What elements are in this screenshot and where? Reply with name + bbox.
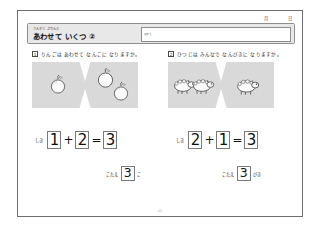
sheep-panel-left [168, 62, 222, 108]
answer-unit: びき [253, 171, 261, 177]
worksheet-page: 月 日 さんすう ぷりんと あわせて いくつ ② なまえ 1 りんごは あわせて… [0, 0, 320, 249]
apple-icon [48, 74, 68, 96]
date-marks: 月 日 [264, 15, 292, 21]
equation-operand-b[interactable]: 1 [216, 131, 230, 149]
question-2-equation: しき 2 + 1 = 3 [176, 131, 258, 149]
answer-label: こたえ [222, 171, 235, 177]
questions-row: 1 りんごは あわせて なんこに なりますか。 [18, 51, 302, 108]
title-text-group: さんすう ぷりんと あわせて いくつ ② [28, 24, 95, 43]
sheep-panel-right [220, 62, 274, 108]
plus-icon: + [63, 134, 73, 146]
equation-label: しき [35, 137, 43, 143]
question-1-panels [32, 62, 160, 108]
equation-operand-a[interactable]: 2 [188, 131, 202, 149]
name-input-field[interactable]: なまえ [141, 27, 291, 42]
day-label: 日 [288, 15, 292, 21]
answer-unit: こ [137, 171, 141, 177]
equation-operand-b[interactable]: 2 [75, 131, 89, 149]
sheep-icon [190, 77, 216, 95]
title-kicker: さんすう ぷりんと [33, 28, 95, 31]
question-2-answer: こたえ 3 びき [222, 166, 261, 181]
question-2-prompt: ひつじは みんなで なんびきに なりますか。 [177, 51, 282, 57]
equation-result[interactable]: 3 [244, 131, 258, 149]
answer-value[interactable]: 3 [237, 166, 251, 181]
equation-operand-a[interactable]: 1 [47, 131, 61, 149]
question-1-prompt: りんごは あわせて なんこに なりますか。 [41, 51, 141, 57]
question-2-number: 2 [168, 51, 174, 57]
page-number: 40 [18, 209, 302, 213]
equation-label: しき [176, 137, 184, 143]
apple-icon [111, 81, 131, 103]
month-label: 月 [264, 15, 268, 21]
answer-value[interactable]: 3 [121, 166, 135, 181]
question-1-number: 1 [32, 51, 38, 57]
apple-panel-right [84, 62, 138, 108]
question-2-header: 2 ひつじは みんなで なんびきに なりますか。 [168, 51, 302, 57]
plus-icon: + [204, 134, 214, 146]
sheep-icon [234, 77, 261, 96]
worksheet-sheet: 月 日 さんすう ぷりんと あわせて いくつ ② なまえ 1 りんごは あわせて… [17, 10, 303, 217]
title-bar: さんすう ぷりんと あわせて いくつ ② なまえ [27, 23, 295, 44]
question-1-column: 1 りんごは あわせて なんこに なりますか。 [18, 51, 160, 108]
question-1-equation: しき 1 + 2 = 3 [35, 131, 117, 149]
question-1-header: 1 りんごは あわせて なんこに なりますか。 [32, 51, 160, 57]
page-title: あわせて いくつ ② [33, 33, 95, 40]
question-2-column: 2 ひつじは みんなで なんびきに なりますか。 [160, 51, 302, 108]
question-2-panels [168, 62, 302, 108]
apple-panel-left [32, 62, 86, 108]
equals-icon: = [232, 134, 242, 146]
question-1-answer: こたえ 3 こ [106, 166, 141, 181]
name-field-label: なまえ [142, 33, 152, 36]
equals-icon: = [91, 134, 101, 146]
equation-result[interactable]: 3 [103, 131, 117, 149]
answer-label: こたえ [106, 171, 119, 177]
